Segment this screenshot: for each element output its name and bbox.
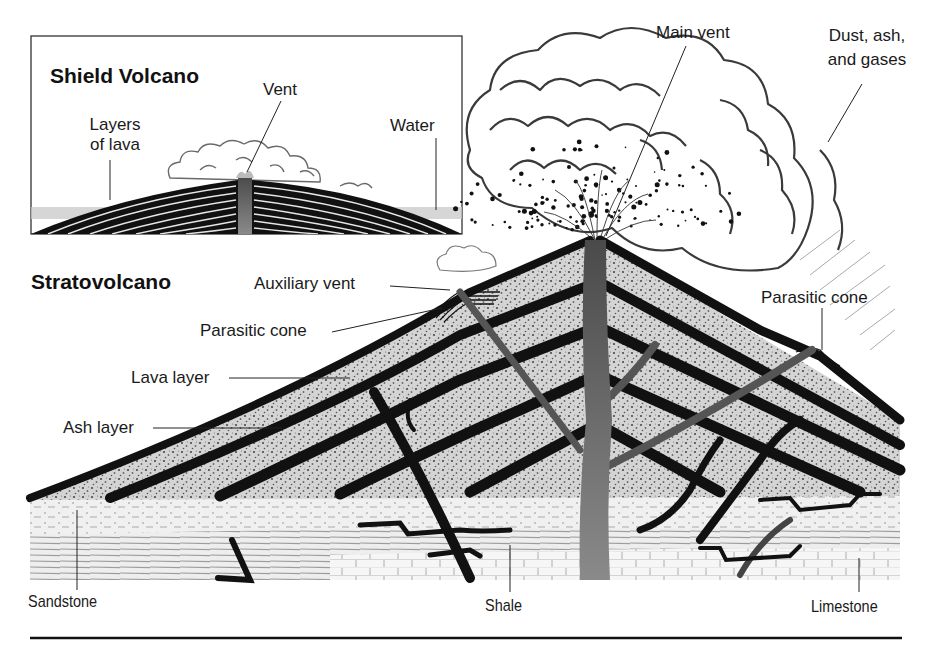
- ejecta-dot: [618, 209, 620, 211]
- leader-auxiliary-vent: [390, 286, 450, 290]
- ejecta-dot: [678, 174, 681, 177]
- stratovolcano-title: Stratovolcano: [31, 270, 171, 294]
- ejecta-dot: [700, 172, 704, 176]
- ejecta-dot: [663, 169, 665, 171]
- ejecta-dot: [591, 207, 594, 210]
- ejecta-dot: [605, 209, 609, 213]
- ejecta-dot: [580, 205, 584, 209]
- ejecta-dot: [696, 218, 699, 221]
- ejecta-dot: [567, 165, 571, 169]
- ejecta-dot: [613, 167, 616, 170]
- ejecta-dot: [681, 210, 684, 213]
- ejecta-dot: [583, 189, 587, 193]
- ejecta-dot: [595, 144, 599, 148]
- ejecta-dot: [540, 223, 543, 226]
- ejecta-dot: [654, 171, 656, 173]
- ejecta-dot: [694, 216, 696, 218]
- ejecta-dot: [648, 193, 652, 197]
- ejecta-dot: [737, 211, 742, 216]
- ejecta-dot: [552, 180, 556, 184]
- label-lava-layer: Lava layer: [131, 368, 209, 388]
- ejecta-dot: [617, 219, 620, 222]
- ejecta-dot: [705, 185, 707, 187]
- ejecta-dot: [626, 179, 628, 181]
- label-sandstone: Sandstone: [28, 592, 97, 612]
- label-dust-ash-gases-1: Dust, ash,: [822, 26, 912, 46]
- ejecta-dot: [573, 147, 577, 151]
- ejecta-dot: [531, 147, 536, 152]
- ejecta-dot: [577, 140, 582, 145]
- ejecta-dot: [532, 209, 537, 214]
- ejecta-dot: [677, 225, 679, 227]
- diagram-canvas: [0, 0, 935, 648]
- ejecta-dot: [584, 184, 587, 187]
- ejecta-dot: [579, 194, 584, 199]
- ejecta-dot: [660, 223, 663, 226]
- ejecta-dot: [470, 192, 474, 196]
- ejecta-dot: [453, 206, 458, 211]
- ejecta-dot: [553, 223, 556, 226]
- ejecta-dot: [692, 166, 695, 169]
- ejecta-dot: [665, 150, 670, 155]
- auxiliary-vent-puff: [437, 246, 496, 272]
- ejecta-dot: [618, 216, 621, 219]
- ejecta-dot: [603, 175, 608, 180]
- ejecta-dot: [665, 182, 669, 186]
- ejecta-dot: [557, 220, 559, 222]
- ejecta-dot: [575, 220, 578, 223]
- ejecta-dot: [554, 199, 557, 202]
- ejecta-dot: [655, 182, 660, 187]
- ejecta-dot: [611, 181, 613, 183]
- ejecta-dot: [658, 179, 661, 182]
- label-layers-of-lava-1: Layers: [84, 115, 146, 135]
- ejecta-dot: [569, 216, 572, 219]
- label-limestone: Limestone: [811, 597, 878, 617]
- ejecta-dot: [476, 182, 480, 186]
- ejecta-dot: [595, 183, 599, 187]
- ejecta-dot: [605, 193, 607, 195]
- ejecta-dot: [701, 221, 706, 226]
- ejecta-dot: [536, 219, 539, 222]
- ejecta-dot: [522, 209, 527, 214]
- ejecta-dot: [531, 218, 533, 220]
- ejecta-dot: [562, 148, 566, 152]
- label-water: Water: [390, 116, 435, 136]
- label-ash-layer: Ash layer: [63, 418, 134, 438]
- ejecta-dot: [678, 184, 680, 186]
- ejecta-dot: [682, 185, 685, 188]
- label-layers-of-lava-2: of lava: [84, 135, 146, 155]
- ejecta-dot: [584, 176, 589, 181]
- ejecta-dot: [460, 201, 462, 203]
- ejecta-dot: [658, 215, 660, 217]
- shield-volcano-title: Shield Volcano: [50, 64, 199, 88]
- ejecta-dot: [543, 202, 545, 204]
- ejecta-dot: [705, 222, 707, 224]
- volcano-diagram: Shield Volcano Vent Layers of lava Water…: [0, 0, 935, 648]
- ejecta-dot: [508, 226, 511, 229]
- label-vent: Vent: [263, 80, 297, 100]
- ejecta-dot: [690, 208, 693, 211]
- ejecta-dot: [582, 222, 585, 225]
- ejecta-dot: [593, 174, 595, 176]
- ejecta-dot: [534, 203, 538, 207]
- ejecta-dot: [631, 205, 636, 210]
- ejecta-dot: [635, 202, 637, 204]
- label-parasitic-cone-right: Parasitic cone: [761, 288, 868, 308]
- ejecta-dot: [645, 203, 648, 206]
- ejecta-dot: [498, 193, 502, 197]
- ejecta-dot: [465, 202, 469, 206]
- ejecta-dot: [605, 202, 609, 206]
- ejecta-dot: [657, 157, 659, 159]
- ejecta-dot: [635, 185, 637, 187]
- ejecta-dot: [667, 209, 669, 211]
- ejecta-dot: [628, 195, 632, 199]
- ejecta-dot: [719, 210, 722, 213]
- ejecta-dot: [519, 171, 524, 176]
- ejecta-dot: [655, 189, 658, 192]
- strato-ash-cloud: [467, 28, 842, 271]
- ejecta-dot: [634, 217, 637, 220]
- ejecta-dot: [559, 220, 562, 223]
- ejecta-dot: [492, 224, 494, 226]
- ejecta-dot: [474, 221, 477, 224]
- ejecta-dot: [637, 200, 642, 205]
